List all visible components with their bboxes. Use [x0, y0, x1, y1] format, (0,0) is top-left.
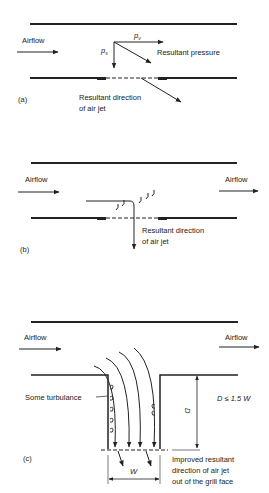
jet-direction-arrow-icon: [141, 78, 181, 102]
jet-label-line2: of air jet: [79, 104, 107, 113]
pv-label: pv: [133, 31, 141, 41]
grill-edge-left: [97, 77, 106, 80]
panel-tag: (c): [23, 454, 32, 463]
jet-label-line1: Improved resultant: [172, 455, 235, 464]
panel-c: Airflow Airflow Some turbulance D D ≤ 1: [19, 322, 259, 486]
duct-bottom-wall-right: [160, 375, 238, 449]
airflow-left-label: Airflow: [25, 175, 48, 184]
airflow-left-label: Airflow: [24, 333, 47, 342]
resultant-pressure-label: Resultant pressure: [157, 48, 220, 57]
curved-flow-arrows-icon: [94, 348, 155, 447]
turbulence-label: Some turbulance: [25, 393, 82, 402]
w-label: W: [130, 467, 138, 476]
jet-label-line1: Resultant direction: [79, 93, 141, 102]
airflow-right-label: Airflow: [225, 175, 248, 184]
jet-label-line3: out of the grill face: [172, 477, 233, 486]
jet-direction-arrow-icon: [86, 201, 134, 249]
turbulence-leader-line: [96, 396, 108, 397]
panel-b: Airflow Airflow Resultant direction of a…: [18, 163, 258, 254]
duct-diagram: Airflow pv ps Resultant pressure (a) Res…: [0, 0, 269, 493]
condition-label: D ≤ 1.5 W: [217, 394, 251, 403]
jet-label-line2: direction of air jet: [172, 466, 230, 475]
turbulence-swirl-icons: [116, 186, 157, 210]
grill-edge-right: [158, 77, 167, 80]
airflow-label: Airflow: [22, 36, 45, 45]
resultant-pressure-arrow-icon: [114, 42, 151, 63]
duct-bottom-wall-left: [31, 375, 108, 449]
panel-tag: (a): [18, 95, 28, 104]
panel-a: Airflow pv ps Resultant pressure (a) Res…: [17, 24, 237, 113]
airflow-right-label: Airflow: [225, 333, 248, 342]
jet-label-line2: of air jet: [142, 237, 170, 246]
panel-tag: (b): [20, 245, 30, 254]
jet-label-line1: Resultant direction: [142, 226, 204, 235]
grill-edge-right: [158, 217, 167, 220]
turbulence-swirl-icons: [110, 385, 155, 432]
grill-edge-left: [97, 217, 106, 220]
jet-exit-arrows-icon: [118, 451, 151, 466]
ps-label: ps: [100, 46, 108, 56]
d-label: D: [183, 408, 192, 414]
